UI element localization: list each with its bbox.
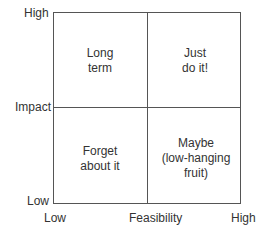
quadrant-text: Maybe bbox=[158, 136, 234, 151]
quadrant-long-term: Long term bbox=[70, 46, 130, 76]
quadrant-maybe: Maybe (low-hanging fruit) bbox=[158, 136, 234, 181]
x-axis-low-label: Low bbox=[44, 211, 66, 225]
quadrant-text: Forget bbox=[70, 144, 130, 159]
x-axis-high-label: High bbox=[231, 211, 256, 225]
quadrant-text: Just bbox=[165, 46, 225, 61]
quadrant-text: do it! bbox=[165, 61, 225, 76]
y-axis-high-label: High bbox=[24, 6, 49, 20]
quadrant-text: Long bbox=[70, 46, 130, 61]
quadrant-forget-about-it: Forget about it bbox=[70, 144, 130, 174]
x-axis-title: Feasibility bbox=[129, 211, 182, 225]
y-axis-title: Impact bbox=[15, 100, 51, 114]
y-axis-low-label: Low bbox=[27, 194, 49, 208]
quadrant-text: term bbox=[70, 61, 130, 76]
horizontal-divider bbox=[53, 107, 241, 108]
vertical-divider bbox=[147, 12, 148, 204]
quadrant-text: about it bbox=[70, 159, 130, 174]
quadrant-text: (low-hanging bbox=[158, 151, 234, 166]
quadrant-text: fruit) bbox=[158, 166, 234, 181]
quadrant-just-do-it: Just do it! bbox=[165, 46, 225, 76]
